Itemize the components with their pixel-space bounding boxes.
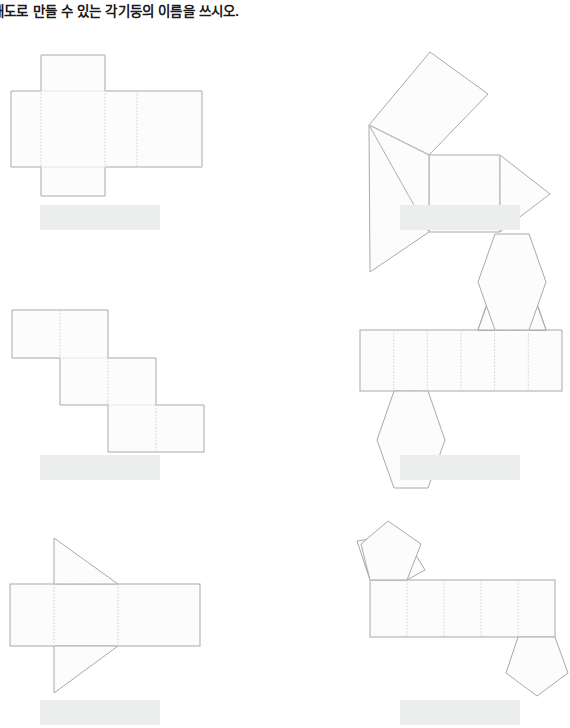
answer-box-1[interactable] <box>40 205 160 230</box>
answer-box-6[interactable] <box>400 700 520 725</box>
page-title: 개도로 만들 수 있는 각기둥의 이름을 쓰시오. <box>0 2 412 22</box>
answer-box-2[interactable] <box>400 205 520 230</box>
worksheet-page: 개도로 만들 수 있는 각기둥의 이름을 쓰시오. .face { fill: … <box>0 0 570 728</box>
net-3-shape <box>12 310 204 452</box>
net-1-shape <box>11 55 202 196</box>
prism-nets-illustration: .face { fill: #fcfcfc; stroke: #a9a9a9; … <box>0 0 570 728</box>
answer-box-4[interactable] <box>400 455 520 480</box>
answer-box-5[interactable] <box>40 700 160 725</box>
net-4-shape <box>360 234 562 488</box>
answer-box-3[interactable] <box>40 455 160 480</box>
net-6-shape <box>357 521 568 696</box>
net-2-shape <box>369 52 550 272</box>
net-5-shape <box>10 538 200 693</box>
